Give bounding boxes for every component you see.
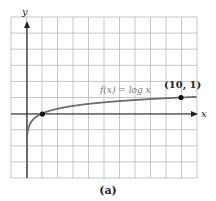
function-label: f(x) = log x <box>99 85 151 95</box>
y-axis-arrow-icon <box>24 21 30 28</box>
point-10-1 <box>178 95 183 100</box>
y-axis-label: y <box>21 6 28 17</box>
point-label: (10, 1) <box>164 79 201 91</box>
point-1-0 <box>40 111 45 116</box>
x-axis-label: x <box>201 108 207 119</box>
log-function-graph: x y f(x) = log x (10, 1) <box>0 0 216 201</box>
figure-caption: (a) <box>0 184 216 197</box>
log-curve <box>27 97 196 177</box>
